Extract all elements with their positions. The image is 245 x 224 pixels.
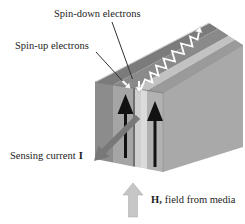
front-spacer-lighter (141, 89, 147, 168)
field-from-media-text: field from media (165, 194, 236, 205)
front-spacer-light (135, 89, 141, 168)
sensing-current-text: Sensing current (10, 150, 76, 161)
sensing-current-label: Sensing currentI (10, 150, 83, 162)
current-symbol: I (79, 150, 83, 161)
field-from-media-label: H,field from media (151, 194, 235, 206)
spin-down-electrons-label: Spin-down electrons (54, 8, 141, 20)
field-arrow (123, 183, 143, 217)
front-spacer-edge (133, 88, 135, 167)
field-symbol: H, (151, 194, 162, 205)
diagram-canvas: Spin-down electrons Spin-up electrons Se… (0, 0, 245, 224)
spin-up-electrons-label: Spin-up electrons (15, 40, 89, 52)
spin-valve-diagram (0, 0, 245, 224)
